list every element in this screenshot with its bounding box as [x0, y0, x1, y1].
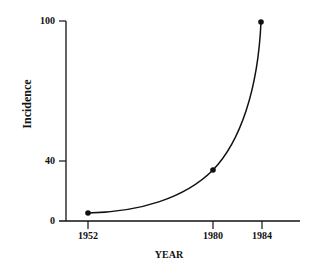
data-point-1952	[85, 210, 91, 216]
y-axis-title: Incidence	[20, 79, 34, 129]
x-tick-label-1952: 1952	[78, 230, 98, 241]
data-point-1980	[210, 167, 216, 173]
y-tick-label-40: 40	[45, 155, 55, 166]
x-tick-label-1980: 1980	[203, 230, 223, 241]
y-tick-label-0: 0	[50, 215, 55, 226]
incidence-curve	[88, 22, 261, 213]
data-point-1984	[258, 19, 264, 25]
x-axis-title: YEAR	[155, 249, 184, 260]
y-tick-label-100: 100	[40, 15, 55, 26]
chart: 100 40 0 1952 1980 1984 YEAR Incidence	[0, 0, 313, 277]
x-tick-label-1984: 1984	[252, 230, 272, 241]
